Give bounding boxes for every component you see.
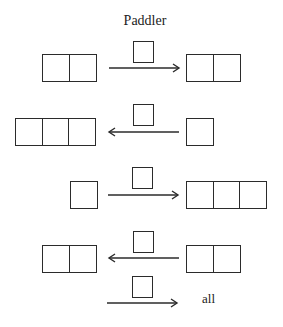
cell <box>186 118 214 146</box>
cell <box>213 54 241 82</box>
row-2-right-group <box>186 118 214 146</box>
right-arrow-icon <box>107 189 181 201</box>
row-4-left-group <box>42 245 97 273</box>
cell <box>213 245 241 273</box>
row-5-token-box <box>132 276 153 298</box>
row-2-token-box <box>133 104 154 126</box>
cell <box>186 54 214 82</box>
left-arrow-icon <box>106 126 180 138</box>
cell <box>42 54 70 82</box>
cell <box>239 181 267 209</box>
row-4-right-group <box>186 245 241 273</box>
row-3-left-group <box>70 181 98 209</box>
cell <box>15 118 43 146</box>
row-1-right-group <box>186 54 241 82</box>
row-2-left-group <box>15 118 96 146</box>
row-3-token-box <box>132 167 153 189</box>
right-arrow-icon <box>108 62 182 74</box>
cell <box>186 181 214 209</box>
cell <box>186 245 214 273</box>
cell <box>42 245 70 273</box>
cell <box>68 118 96 146</box>
cell <box>70 181 98 209</box>
cell <box>42 118 70 146</box>
row-5-result-label: all <box>202 292 215 306</box>
row-3-right-group <box>186 181 267 209</box>
cell <box>69 54 97 82</box>
cell <box>69 245 97 273</box>
cell <box>213 181 241 209</box>
row-4-token-box <box>133 231 154 253</box>
right-arrow-icon <box>106 297 180 309</box>
row-1-token-box <box>133 41 154 63</box>
left-arrow-icon <box>106 252 180 264</box>
row-1-left-group <box>42 54 97 82</box>
diagram-title: Paddler <box>0 13 283 29</box>
